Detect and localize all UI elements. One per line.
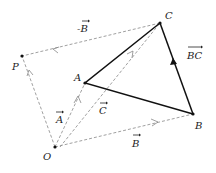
vector-label-A: A [55, 111, 64, 126]
vector-label-B: B [131, 134, 141, 150]
point-A [83, 81, 86, 84]
svg-text:A: A [55, 114, 63, 125]
svg-text:-B: -B [77, 23, 88, 34]
point-P [20, 54, 23, 57]
label-O: O [43, 151, 51, 162]
chevron-OP-icon [27, 70, 33, 76]
label-A: A [73, 72, 81, 83]
vector-B-line [55, 114, 193, 147]
point-B [191, 112, 194, 115]
chevron-negB-icon [53, 47, 59, 53]
vector-label-C: C [99, 102, 108, 117]
label-P: P [11, 61, 19, 72]
point-O [53, 145, 56, 148]
point-C [158, 21, 161, 24]
vector-BC-line [160, 23, 193, 114]
svg-text:C: C [99, 105, 107, 116]
svg-text:BC: BC [186, 50, 203, 61]
chevron-C-icon [127, 51, 133, 58]
arrow-BC-icon [170, 58, 177, 65]
vector-label-negB: -B [77, 20, 90, 35]
label-C: C [165, 10, 173, 21]
chevron-B-icon [151, 119, 158, 126]
vector-diagram: O A B C P -B A C B BC [0, 0, 216, 173]
vector-C-line [60, 23, 160, 147]
vector-OP-line [22, 56, 55, 147]
label-B: B [194, 120, 202, 131]
vector-label-BC: BC [186, 46, 203, 62]
svg-text:B: B [131, 138, 139, 149]
